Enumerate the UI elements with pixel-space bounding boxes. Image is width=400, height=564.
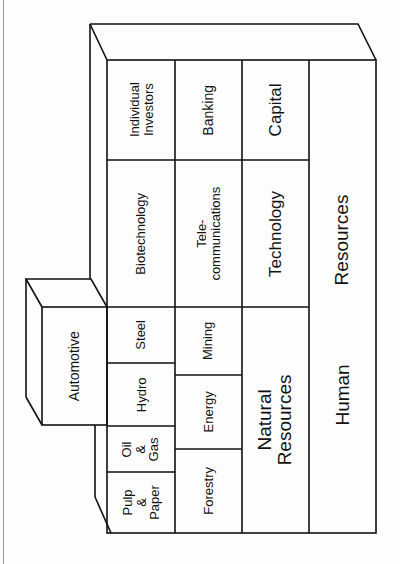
label-banking: Banking — [201, 85, 216, 136]
label-energy: Energy — [202, 391, 216, 432]
label-oil-gas: Oil & Gas — [121, 437, 162, 461]
cell-hydro: Hydro — [107, 363, 175, 426]
label-forestry: Forestry — [202, 467, 216, 515]
cell-technology: Technology — [242, 160, 309, 307]
label-human: Human — [333, 364, 353, 425]
label-natural-resources: Natural Resources — [256, 375, 296, 466]
label-resources: Resources — [333, 195, 353, 286]
cell-oil-gas: Oil & Gas — [107, 426, 175, 472]
cell-telecommunications: Tele- communications — [175, 160, 242, 307]
label-capital: Capital — [267, 84, 285, 137]
label-individual-investors: Individual Investors — [127, 83, 154, 138]
label-biotechnology: Biotechnology — [134, 193, 148, 275]
label-steel: Steel — [134, 320, 148, 350]
label-mining: Mining — [202, 322, 216, 360]
cell-individual-investors: Individual Investors — [107, 60, 175, 160]
cell-pulp-paper: Pulp & Paper — [107, 472, 175, 533]
label-hydro: Hydro — [134, 377, 148, 412]
label-technology: Technology — [267, 190, 285, 276]
cell-energy: Energy — [175, 375, 242, 449]
cell-biotechnology: Biotechnology — [107, 160, 175, 307]
cell-capital: Capital — [242, 60, 309, 160]
cell-steel: Steel — [107, 307, 175, 363]
cell-automotive: Automotive — [42, 307, 107, 425]
cell-human-resources-part1: Human — [309, 330, 376, 460]
cell-human-resources-part2: Resources — [309, 120, 376, 360]
cell-mining: Mining — [175, 307, 242, 375]
cell-forestry: Forestry — [175, 449, 242, 533]
label-pulp-paper: Pulp & Paper — [121, 485, 162, 520]
label-telecommunications: Tele- communications — [195, 187, 222, 281]
cell-natural-resources: Natural Resources — [242, 307, 309, 533]
label-automotive: Automotive — [67, 331, 82, 401]
cell-banking: Banking — [175, 60, 242, 160]
